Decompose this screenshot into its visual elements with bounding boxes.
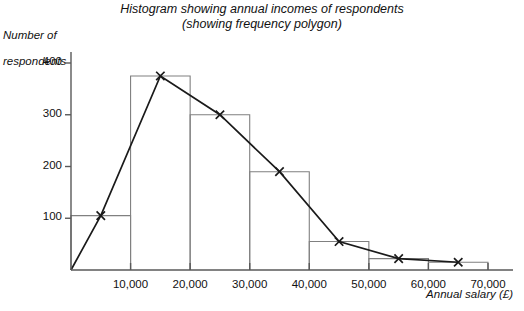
y-tick-label: 400 bbox=[14, 55, 62, 67]
x-tick-label: 70,000 bbox=[448, 278, 524, 290]
histogram-bar bbox=[250, 172, 310, 270]
plot-area bbox=[0, 0, 524, 311]
y-tick-label: 100 bbox=[14, 210, 62, 222]
y-tick-label: 200 bbox=[14, 159, 62, 171]
frequency-polygon-line bbox=[71, 76, 458, 270]
histogram-bar bbox=[131, 76, 191, 270]
histogram-bar bbox=[309, 242, 369, 270]
histogram-chart: Histogram showing annual incomes of resp… bbox=[0, 0, 524, 311]
histogram-bar bbox=[71, 216, 131, 270]
histogram-bar bbox=[190, 115, 250, 270]
y-tick-label: 300 bbox=[14, 107, 62, 119]
